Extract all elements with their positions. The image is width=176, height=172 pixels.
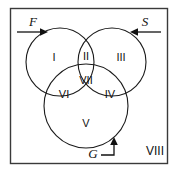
- set-label-f: F: [28, 14, 38, 29]
- set-label-g: G: [88, 146, 98, 161]
- region-label-i: I: [52, 51, 55, 63]
- region-label-v: V: [82, 117, 90, 129]
- region-label-ii: II: [83, 50, 89, 62]
- region-label-viii: VIII: [146, 144, 164, 158]
- set-label-s: S: [142, 14, 149, 29]
- region-label-iii: III: [116, 51, 125, 63]
- region-label-vi: VI: [59, 88, 69, 100]
- region-label-iv: IV: [105, 88, 116, 100]
- venn-diagram-figure: F S G I II III VII VI IV V VIII: [0, 0, 176, 172]
- region-label-vii: VII: [79, 74, 92, 86]
